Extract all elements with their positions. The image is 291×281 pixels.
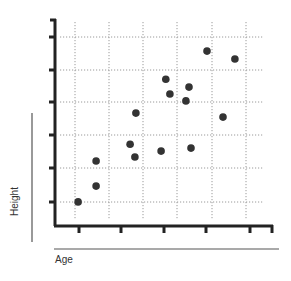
data-point — [92, 182, 100, 190]
data-point — [219, 113, 227, 121]
data-point — [182, 97, 190, 105]
data-point — [132, 109, 140, 117]
axes — [49, 19, 273, 233]
data-point — [162, 75, 170, 83]
data-point — [126, 140, 134, 148]
data-point — [131, 153, 139, 161]
data-point — [166, 90, 174, 98]
data-points — [74, 47, 238, 205]
grid-lines — [60, 22, 264, 219]
data-point — [231, 55, 239, 63]
scatter-chart: Height Age — [0, 0, 291, 281]
data-point — [185, 83, 193, 91]
x-axis-label: Age — [55, 254, 73, 265]
data-point — [187, 144, 195, 152]
data-point — [92, 157, 100, 165]
data-point — [157, 147, 165, 155]
data-point — [74, 198, 82, 206]
y-axis-label: Height — [9, 187, 20, 216]
plot-area — [0, 0, 291, 281]
data-point — [203, 47, 211, 55]
